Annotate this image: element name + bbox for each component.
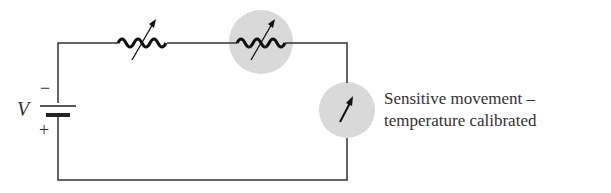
wires — [58, 43, 347, 180]
caption-line-1: Sensitive movement – — [384, 88, 536, 110]
variable-resistor-icon — [118, 19, 166, 60]
negative-terminal-label: − — [40, 78, 50, 99]
battery-icon — [40, 106, 76, 115]
positive-terminal-label: + — [39, 120, 49, 141]
voltage-label: V — [17, 98, 29, 121]
circuit-diagram: − V + Sensitive movement – temperature c… — [0, 0, 611, 193]
caption-line-2: temperature calibrated — [384, 110, 536, 132]
meter-caption: Sensitive movement – temperature calibra… — [384, 88, 536, 132]
